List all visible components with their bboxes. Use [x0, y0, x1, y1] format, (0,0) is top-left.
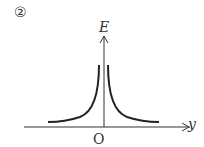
y-axis [100, 36, 108, 127]
right-curve [108, 65, 159, 122]
graph [0, 0, 204, 147]
left-curve [48, 65, 99, 122]
x-axis [24, 123, 190, 131]
